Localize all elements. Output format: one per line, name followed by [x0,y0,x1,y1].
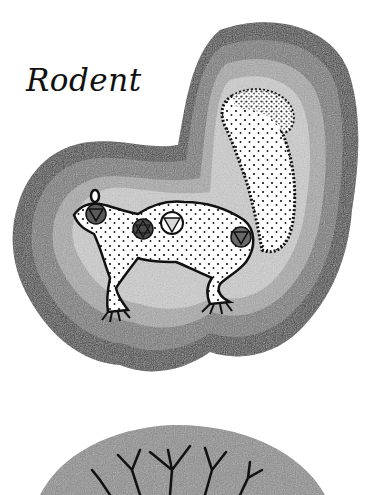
tree-illustration-partial [40,425,325,495]
heart-chakra-symbol [161,212,183,234]
squirrel-illustration [0,0,367,495]
throat-chakra-symbol [133,219,153,239]
root-chakra-symbol [231,227,251,247]
aura-bands [13,22,359,371]
head-chakra-symbol [86,204,106,224]
squirrel-ear [91,190,99,202]
